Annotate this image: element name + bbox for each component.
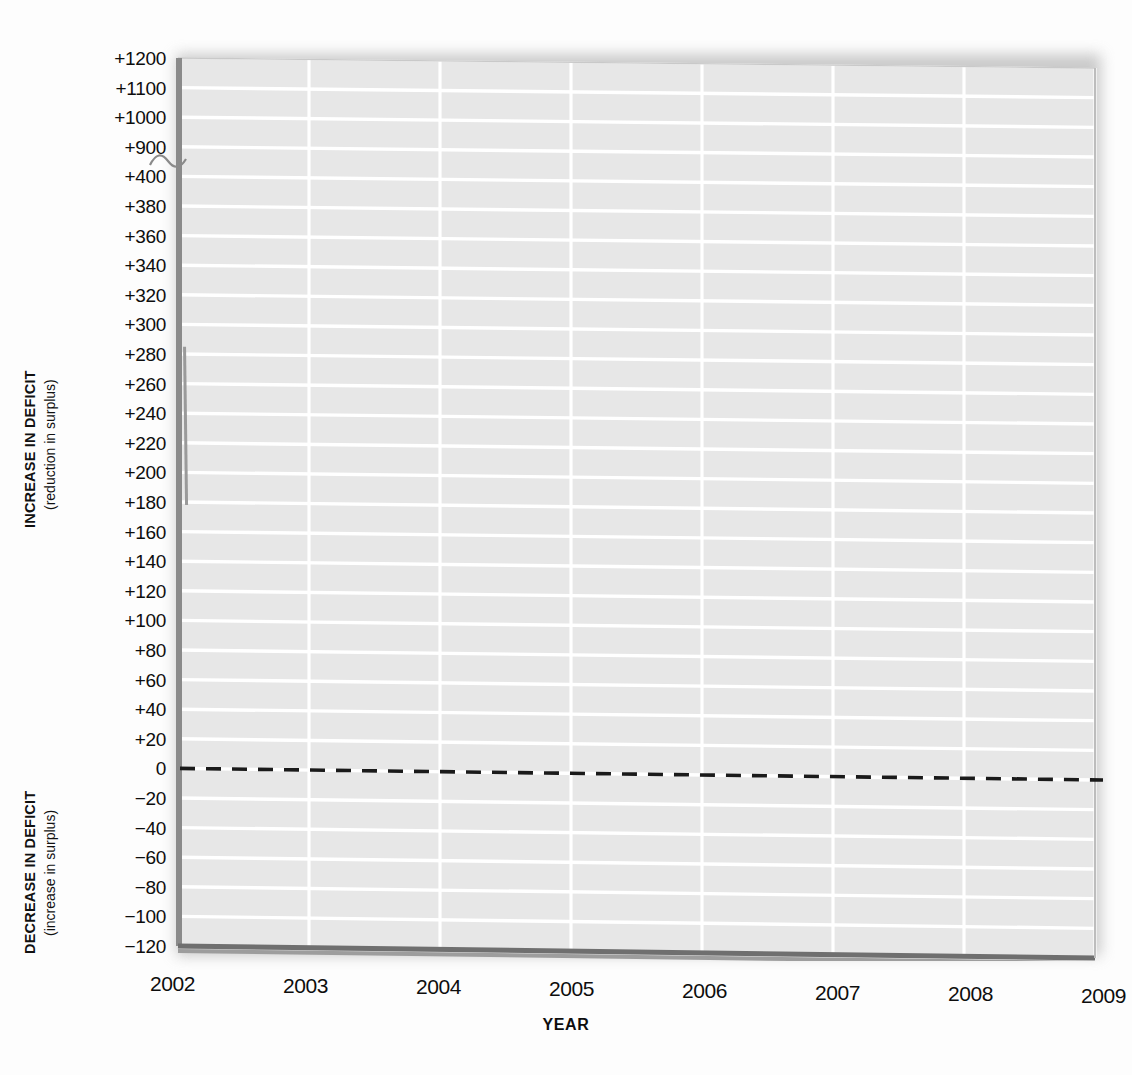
x-tick-label: 2004 bbox=[416, 975, 461, 999]
chart-figure: INCREASE IN DEFICIT (reduction in surplu… bbox=[0, 0, 1132, 1075]
x-tick-label: 2008 bbox=[948, 982, 993, 1006]
x-tick-label: 2007 bbox=[815, 981, 860, 1005]
x-tick-label: 2003 bbox=[283, 974, 328, 998]
x-tick-label: 2002 bbox=[150, 972, 195, 996]
y-axis-break-icon bbox=[148, 151, 188, 173]
axis-break-squiggle bbox=[150, 155, 186, 166]
x-tick-label: 2006 bbox=[682, 979, 727, 1003]
x-tick-label: 2005 bbox=[549, 977, 594, 1001]
x-tick-label: 2009 bbox=[1081, 984, 1126, 1008]
x-axis-title: YEAR bbox=[0, 1016, 1132, 1034]
